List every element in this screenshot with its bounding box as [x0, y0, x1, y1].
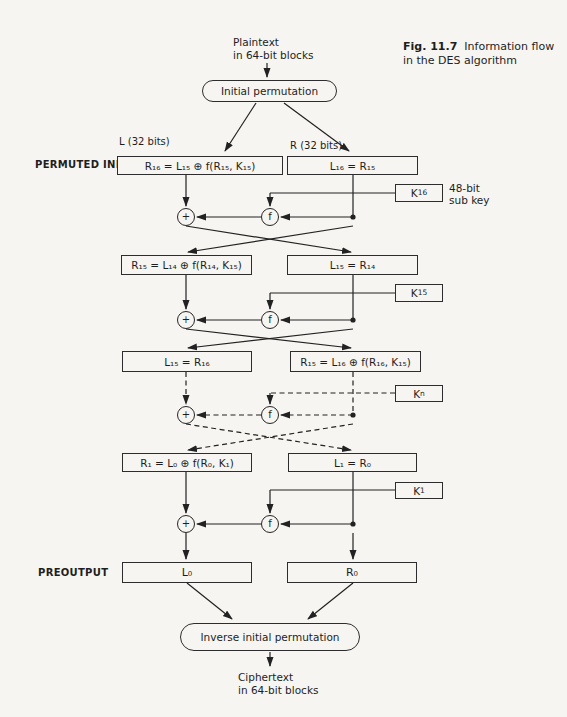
ciphertext-label-line2: in 64-bit blocks — [238, 684, 318, 697]
figure-caption-text: Information flow — [464, 40, 554, 53]
round3-left-register-box: L₁₅ = R₁₆ — [122, 351, 252, 372]
round1-key-box: K16 — [395, 184, 443, 202]
round3-key-box: Kn — [395, 385, 443, 402]
round1-key-base: K — [411, 187, 418, 199]
round3-key-sub: n — [420, 390, 425, 398]
round4-key-box: K1 — [395, 482, 443, 499]
round2-xor-circle: + — [177, 311, 195, 329]
round2-key-sub: 15 — [418, 289, 428, 297]
subkey-note-line1: 48-bit — [449, 182, 480, 195]
preoutput-label: PREOUTPUT — [38, 567, 108, 580]
round1-key-sub: 16 — [418, 189, 428, 197]
round4-key-base: K — [413, 485, 420, 497]
des-diagram-page: Plaintext in 64-bit blocks Fig. 11.7Info… — [0, 0, 567, 717]
figure-caption-line1: Fig. 11.7Information flow — [403, 40, 554, 54]
right-register-label: R (32 bits) — [290, 140, 342, 153]
round1-f-circle: f — [261, 208, 279, 226]
preoutput-right-box: R₀ — [287, 562, 417, 583]
round2-left-register-box: R₁₅ = L₁₄ ⊕ f(R₁₄, K₁₅) — [121, 255, 252, 275]
figure-number: Fig. 11.7 — [403, 40, 457, 53]
left-register-label: L (32 bits) — [119, 136, 170, 149]
round4-left-register-box: R₁ = L₀ ⊕ f(R₀, K₁) — [122, 453, 252, 472]
round4-f-circle: f — [261, 515, 279, 533]
round1-right-register-box: L₁₆ = R₁₅ — [287, 156, 418, 175]
preoutput-left-box: L₀ — [122, 562, 252, 583]
round2-f-circle: f — [261, 311, 279, 329]
round3-f-circle: f — [261, 406, 279, 424]
round3-right-register-box: R₁₅ = L₁₆ ⊕ f(R₁₆, K₁₅) — [290, 351, 421, 372]
round1-xor-circle: + — [177, 208, 195, 226]
figure-caption-line2: in the DES algorithm — [403, 54, 517, 68]
plaintext-label-line2: in 64-bit blocks — [233, 49, 313, 62]
round4-xor-circle: + — [177, 515, 195, 533]
subkey-note-line2: sub key — [449, 194, 490, 207]
round1-left-register-box: R₁₆ = L₁₅ ⊕ f(R₁₅, K₁₅) — [117, 156, 283, 175]
round4-key-sub: 1 — [420, 487, 425, 495]
round3-key-base: K — [413, 388, 420, 400]
round2-key-base: K — [411, 287, 418, 299]
plaintext-label-line1: Plaintext — [233, 36, 279, 49]
inverse-permutation-box: Inverse initial permutation — [180, 623, 360, 651]
initial-permutation-box: Initial permutation — [202, 80, 337, 102]
round3-xor-circle: + — [177, 406, 195, 424]
round2-right-register-box: L₁₅ = R₁₄ — [287, 255, 418, 275]
round2-key-box: K15 — [395, 284, 443, 302]
round4-right-register-box: L₁ = R₀ — [288, 453, 417, 472]
diagram-connectors — [0, 0, 567, 717]
ciphertext-label-line1: Ciphertext — [238, 671, 293, 684]
